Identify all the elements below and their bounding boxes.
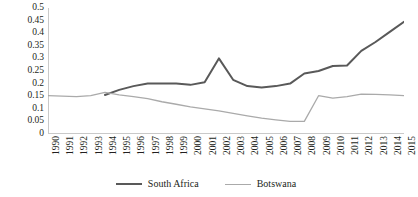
x-axis-tick-label: 1998	[166, 136, 176, 155]
x-axis-tick-label: 1995	[123, 136, 133, 155]
x-axis-tick-label: 2011	[351, 136, 361, 155]
plot-svg	[48, 8, 404, 134]
x-axis-tick-label: 1996	[137, 136, 147, 155]
x-axis-tick-label: 1992	[80, 136, 90, 155]
x-axis-tick-label: 2010	[337, 136, 347, 155]
line-swatch-light-icon	[225, 184, 251, 185]
y-axis-tick-label: 0.5	[4, 3, 44, 13]
x-axis-tick-label: 1993	[95, 136, 105, 155]
x-axis-tick-label: 1990	[52, 136, 62, 155]
x-axis-tick-label: 2006	[280, 136, 290, 155]
x-axis-tick-label: 2000	[194, 136, 204, 155]
series-line-botswana	[48, 92, 404, 121]
series-line-south-africa	[105, 22, 404, 95]
x-axis-tick-label: 2008	[308, 136, 318, 155]
line-swatch-dark-icon	[116, 183, 142, 185]
legend-entry-south-africa[interactable]: South Africa	[116, 179, 199, 189]
x-axis-tick-label: 1991	[66, 136, 76, 155]
y-axis-tick-label: 0.15	[4, 91, 44, 101]
x-axis-tick-label: 2013	[380, 136, 390, 155]
x-axis-tick-label: 2009	[323, 136, 333, 155]
x-axis-tick-label: 2001	[209, 136, 219, 155]
plot-area	[48, 8, 404, 134]
x-axis-tick-label: 1999	[180, 136, 190, 155]
x-axis-tick-label: 1997	[152, 136, 162, 155]
x-axis-tick-label: 2014	[394, 136, 404, 155]
x-axis-tick-label: 2012	[365, 136, 375, 155]
y-axis-tick-label: 0.35	[4, 41, 44, 51]
y-axis-tick-label: 0.3	[4, 53, 44, 63]
x-axis-tick-label: 1994	[109, 136, 119, 155]
legend-label-south-africa: South Africa	[148, 179, 199, 189]
x-axis-tick-label: 2003	[237, 136, 247, 155]
y-axis-tick-label: 0.2	[4, 79, 44, 89]
x-axis-tick-label: 2004	[251, 136, 261, 155]
y-axis-tick-label: 0.45	[4, 16, 44, 26]
x-axis-tick-label: 2015	[408, 136, 418, 155]
y-axis-tick-label: 0.05	[4, 116, 44, 126]
legend-entry-botswana[interactable]: Botswana	[225, 179, 296, 189]
x-axis-tick-label: 2002	[223, 136, 233, 155]
y-axis-tick-label: 0.25	[4, 66, 44, 76]
y-axis-tick-label: 0.1	[4, 104, 44, 114]
chart-legend: South Africa Botswana	[0, 176, 412, 192]
y-axis-tick-label: 0	[4, 129, 44, 139]
y-axis-tick-label: 0.4	[4, 28, 44, 38]
x-axis-tick-labels: 1990199119921993199419951996199719981999…	[48, 136, 404, 172]
legend-label-botswana: Botswana	[257, 179, 296, 189]
x-axis-tick-label: 2007	[294, 136, 304, 155]
x-axis-tick-label: 2005	[266, 136, 276, 155]
